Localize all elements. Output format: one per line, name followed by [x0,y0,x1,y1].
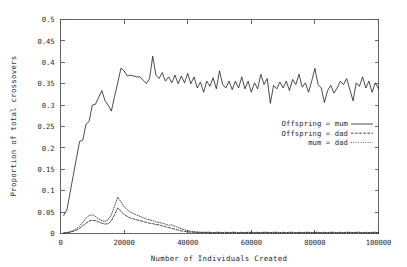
y-tick-label: 0.35 [38,79,55,88]
chart-container: 020000400006000080000100000 00.050.10.15… [0,0,407,267]
y-tick-label: 0.3 [42,101,55,110]
y-tick-label: 0.4 [42,58,55,67]
y-tick-label: 0.45 [38,37,55,46]
legend: Offspring = mumOffspring = dadmum = dad [282,119,373,146]
x-tick-label: 20000 [114,238,135,247]
y-tick-label: 0.2 [42,144,55,153]
series-path [64,197,379,233]
y-tick-label: 0 [50,229,54,238]
x-tick-label: 100000 [366,238,391,247]
y-axis-title: Proportion of total crossovers [9,56,18,197]
line-chart: 020000400006000080000100000 00.050.10.15… [0,0,407,267]
y-tick-label: 0.05 [38,208,55,217]
y-tick-label: 0.1 [42,186,55,195]
x-axis-title: Number of Individuals Created [151,254,287,263]
legend-label: Offspring = dad [282,129,348,138]
x-tick-label: 0 [58,238,62,247]
series-path [64,208,379,233]
x-tick-label: 60000 [241,238,262,247]
x-tick-label: 40000 [177,238,198,247]
x-axis-tick-labels: 020000400006000080000100000 [58,238,391,247]
y-tick-label: 0.25 [38,122,55,131]
x-tick-label: 80000 [304,238,325,247]
y-tick-label: 0.15 [38,165,55,174]
legend-label: mum = dad [308,138,348,147]
legend-label: Offspring = mum [282,119,348,128]
y-axis-tick-labels: 00.050.10.150.20.250.30.350.40.450.5 [38,15,55,238]
y-tick-label: 0.5 [42,15,55,24]
